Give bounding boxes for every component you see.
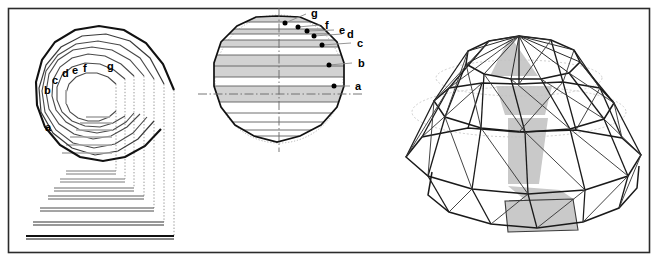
elevation-label-g: g: [311, 7, 318, 19]
elevation-point-a: [332, 84, 337, 89]
plan-label-d: d: [62, 67, 69, 79]
elevation-label-b: b: [358, 57, 365, 69]
diagram-canvas: a b c d e f g: [0, 0, 658, 261]
elevation-label-c: c: [357, 37, 363, 49]
elevation-label-d: d: [347, 28, 354, 40]
elevation-point-f: [296, 25, 301, 30]
figure-container: a b c d e f g: [0, 0, 658, 261]
plan-label-f: f: [83, 62, 87, 74]
plan-label-a: a: [45, 121, 52, 133]
plan-label-b: b: [44, 84, 51, 96]
elevation-point-d: [312, 34, 317, 39]
elevation-point-g: [283, 21, 288, 26]
elevation-point-b: [327, 63, 332, 68]
elevation-point-c: [320, 43, 325, 48]
plan-label-g: g: [107, 60, 114, 72]
elevation-label-e: e: [339, 24, 345, 36]
elevation-label-f: f: [325, 19, 329, 31]
plan-label-c: c: [52, 74, 58, 86]
elevation-point-e: [305, 29, 310, 34]
plan-label-e: e: [72, 64, 78, 76]
elevation-label-a: a: [355, 80, 362, 92]
